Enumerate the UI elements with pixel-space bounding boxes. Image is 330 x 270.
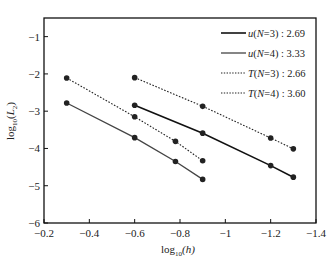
x-axis-label: log10(h) xyxy=(161,243,195,258)
y-tick-label: −5 xyxy=(28,180,40,192)
data-point-marker xyxy=(200,104,206,110)
legend-label: T(N=4) : 3.60 xyxy=(248,88,306,100)
data-point-marker xyxy=(132,135,138,141)
y-tick-label: −4 xyxy=(28,142,40,154)
y-axis-ticks: −1−2−3−4−5−6 xyxy=(28,31,48,229)
legend: u(N=3) : 2.69u(N=4) : 3.33T(N=3) : 2.66T… xyxy=(221,28,306,100)
data-point-marker xyxy=(132,75,138,81)
y-tick-label: −6 xyxy=(28,217,40,229)
x-axis-ticks: −0.2−0.4−0.6−0.8−1−1.2−1.4 xyxy=(34,219,326,239)
data-point-marker xyxy=(268,135,274,141)
data-point-marker xyxy=(132,114,138,120)
y-tick-label: −2 xyxy=(28,68,40,80)
legend-label: u(N=3) : 2.69 xyxy=(248,28,305,40)
x-tick-label: −1.2 xyxy=(261,227,281,239)
convergence-chart: −0.2−0.4−0.6−0.8−1−1.2−1.4 −1−2−3−4−5−6 … xyxy=(0,0,330,270)
x-tick-label: −1 xyxy=(219,227,231,239)
data-point-marker xyxy=(64,75,70,81)
series-u-n-3- xyxy=(132,102,296,180)
data-point-marker xyxy=(200,177,206,183)
y-tick-label: −3 xyxy=(28,105,40,117)
data-point-marker xyxy=(200,158,206,164)
series-t-n-4- xyxy=(64,75,206,163)
x-tick-label: −0.4 xyxy=(79,227,99,239)
x-tick-label: −1.4 xyxy=(306,227,326,239)
data-point-marker xyxy=(291,174,297,180)
legend-label: T(N=3) : 2.66 xyxy=(248,68,306,80)
data-point-marker xyxy=(200,130,206,136)
data-point-marker xyxy=(64,100,70,106)
x-tick-label: −0.6 xyxy=(125,227,145,239)
legend-label: u(N=4) : 3.33 xyxy=(248,48,305,60)
data-point-marker xyxy=(173,139,179,145)
data-point-marker xyxy=(291,146,297,152)
y-tick-label: −1 xyxy=(28,31,40,43)
data-point-marker xyxy=(173,159,179,165)
series-t-n-3- xyxy=(132,75,296,152)
y-axis-label: log10(L2) xyxy=(4,102,19,140)
series-u-n-4- xyxy=(64,100,206,182)
x-tick-label: −0.8 xyxy=(170,227,190,239)
data-point-marker xyxy=(268,163,274,169)
data-point-marker xyxy=(132,102,138,108)
